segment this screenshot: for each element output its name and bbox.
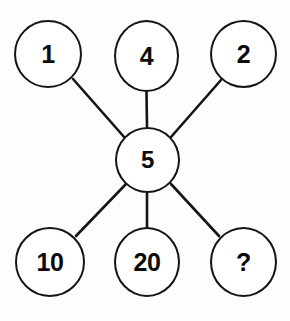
edge-one-to-center [73, 79, 125, 138]
node-one-label: 1 [41, 42, 54, 67]
node-unknown[interactable]: ? [210, 227, 277, 297]
node-two-label: 2 [237, 42, 250, 67]
node-ten-label: 10 [37, 250, 64, 275]
node-ten[interactable]: 10 [15, 227, 85, 297]
node-center-label: 5 [141, 148, 154, 172]
edge-four-to-center [147, 92, 148, 127]
node-one[interactable]: 1 [14, 20, 82, 88]
node-center[interactable]: 5 [115, 127, 180, 193]
node-unknown-label: ? [236, 250, 251, 275]
node-twenty[interactable]: 20 [114, 227, 180, 297]
edge-two-to-center [171, 80, 221, 137]
edge-ten-to-center [76, 184, 126, 236]
node-twenty-label: 20 [134, 250, 161, 275]
node-two[interactable]: 2 [210, 20, 277, 88]
node-four-label: 4 [140, 44, 153, 69]
edge-quest-to-center [171, 184, 219, 236]
puzzle-canvas: 1 4 2 5 10 20 ? [0, 0, 290, 321]
node-four[interactable]: 4 [114, 20, 179, 92]
